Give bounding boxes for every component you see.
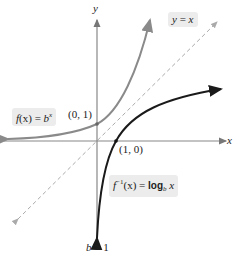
condition-val: 1	[103, 241, 109, 253]
logarithm-curve	[97, 89, 221, 238]
point-0-1-label: (0, 1)	[68, 108, 92, 121]
exp-eq: =	[32, 112, 44, 124]
point-0-1	[95, 122, 99, 126]
exponential-label: f(x) = bx	[12, 108, 56, 126]
log-eq: =	[136, 179, 148, 191]
log-inverse: −1	[116, 178, 123, 186]
log-var: x	[167, 179, 175, 191]
diagram-canvas: y x y = x f(x) = bx (0, 1) (1, 0) f−1(x)…	[0, 0, 238, 260]
log-word: log	[148, 180, 163, 191]
graph-svg	[0, 0, 238, 260]
condition-op: >	[92, 241, 104, 253]
identity-eq: =	[177, 13, 189, 25]
condition-label: b > 1	[86, 241, 109, 254]
log-arg: (x)	[124, 179, 137, 191]
x-axis-label: x	[227, 134, 232, 147]
point-1-0-label: (1, 0)	[119, 143, 143, 156]
exp-arg: (x)	[19, 112, 32, 124]
identity-rhs: x	[189, 13, 194, 25]
identity-label: y = x	[168, 12, 198, 27]
exp-exponent: x	[49, 111, 52, 119]
logarithm-label: f−1(x) = logb x	[109, 175, 178, 197]
point-1-0	[114, 139, 118, 143]
y-axis-label: y	[93, 2, 98, 15]
